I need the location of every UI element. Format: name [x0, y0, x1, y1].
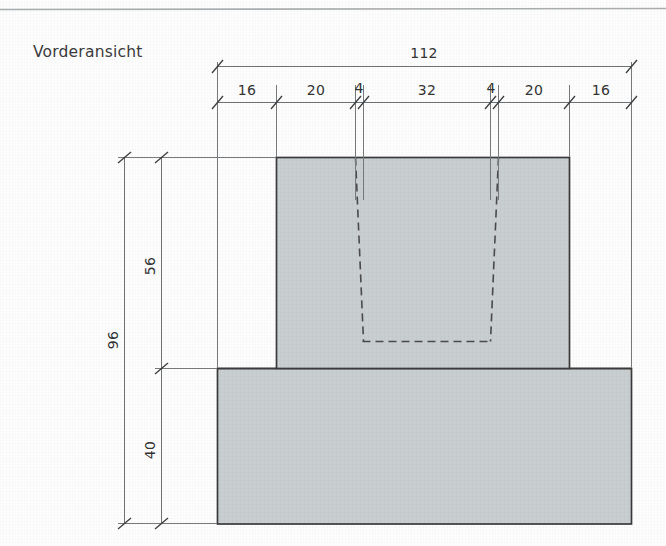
view-title: Vorderansicht — [33, 43, 142, 61]
dim-label-width-3: 4 — [354, 80, 363, 96]
upper-block — [277, 158, 570, 369]
dim-label-width-4: 32 — [418, 82, 436, 98]
dim-label-height-2: 40 — [142, 441, 158, 459]
dim-label-overall-width: 112 — [410, 45, 438, 61]
dim-label-overall-height: 96 — [105, 331, 121, 349]
dim-label-width-1: 16 — [238, 82, 256, 98]
dim-label-width-6: 20 — [525, 82, 543, 98]
base-block — [218, 369, 632, 525]
dim-label-width-2: 20 — [307, 82, 325, 98]
dim-label-width-7: 16 — [592, 82, 610, 98]
technical-drawing-canvas — [0, 0, 666, 546]
drawing-sheet: Vorderansicht 112 16 20 4 32 4 20 16 96 … — [0, 0, 666, 546]
sheet-top-rule — [0, 9, 666, 10]
dim-label-width-5: 4 — [486, 80, 495, 96]
dim-label-height-1: 56 — [142, 257, 158, 275]
